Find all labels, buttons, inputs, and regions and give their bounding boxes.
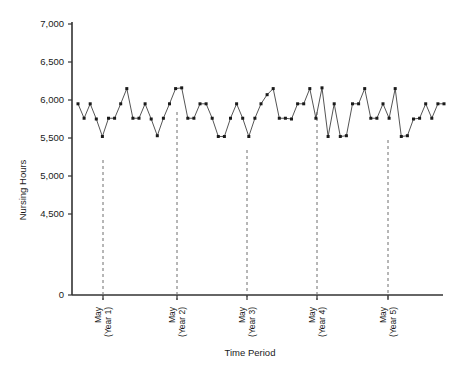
- data-point: [412, 118, 415, 121]
- data-point: [363, 87, 366, 90]
- data-point: [125, 87, 128, 90]
- data-point: [150, 118, 153, 121]
- x-tick-label-year3-top: May: [237, 306, 247, 323]
- y-tick-label-4500: 4,500: [40, 208, 64, 219]
- data-point: [229, 117, 232, 120]
- data-point: [388, 117, 391, 120]
- data-point: [119, 102, 122, 105]
- data-point: [284, 117, 287, 120]
- data-point: [302, 102, 305, 105]
- x-tick-label-year3-bottom: (Year 3): [247, 307, 257, 337]
- data-point: [321, 86, 324, 89]
- data-point: [272, 87, 275, 90]
- data-point: [394, 87, 397, 90]
- data-point: [430, 117, 433, 120]
- data-point: [308, 87, 311, 90]
- data-point: [357, 102, 360, 105]
- data-point: [205, 102, 208, 105]
- data-point: [290, 118, 293, 121]
- data-point: [400, 135, 403, 138]
- data-point: [436, 102, 439, 105]
- data-point: [144, 102, 147, 105]
- data-point: [375, 117, 378, 120]
- data-point: [260, 102, 263, 105]
- data-point: [192, 117, 195, 120]
- data-point: [369, 117, 372, 120]
- data-point: [83, 117, 86, 120]
- data-point: [174, 87, 177, 90]
- data-point: [89, 102, 92, 105]
- y-tick-label-7000: 7,000: [40, 18, 64, 29]
- chart-container: 7,000 6,500 6,000 5,500 5,000 4,500 0 Nu…: [0, 0, 452, 366]
- data-point: [314, 117, 317, 120]
- data-point: [168, 102, 171, 105]
- data-point: [113, 117, 116, 120]
- x-tick-label-year4-top: May: [307, 306, 317, 323]
- data-point: [138, 117, 141, 120]
- y-tick-label-0: 0: [59, 289, 64, 300]
- data-point: [333, 102, 336, 105]
- data-point: [95, 118, 98, 121]
- data-point: [278, 117, 281, 120]
- x-tick-label-year1-bottom: (Year 1): [103, 307, 113, 337]
- y-tick-label-5000: 5,000: [40, 170, 64, 181]
- x-axis-title: Time Period: [225, 347, 276, 358]
- y-tick-label-6000: 6,000: [40, 94, 64, 105]
- data-point: [186, 117, 189, 120]
- data-point: [235, 102, 238, 105]
- data-point: [382, 102, 385, 105]
- data-point: [101, 135, 104, 138]
- data-point: [217, 135, 220, 138]
- data-point: [424, 102, 427, 105]
- data-point: [241, 117, 244, 120]
- x-tick-label-year2-bottom: (Year 2): [177, 307, 187, 337]
- x-tick-label-year4-bottom: (Year 4): [317, 307, 327, 337]
- data-point: [211, 117, 214, 120]
- data-point: [418, 117, 421, 120]
- data-point: [162, 117, 165, 120]
- data-point: [296, 102, 299, 105]
- y-axis-title: Nursing Hours: [17, 159, 28, 220]
- data-point: [180, 86, 183, 89]
- data-point: [266, 93, 269, 96]
- data-point: [199, 102, 202, 105]
- y-tick-label-6500: 6,500: [40, 56, 64, 67]
- data-point: [77, 102, 80, 105]
- nursing-hours-line-chart: 7,000 6,500 6,000 5,500 5,000 4,500 0 Nu…: [0, 0, 452, 366]
- data-point: [131, 117, 134, 120]
- data-point: [406, 134, 409, 137]
- y-tick-label-5500: 5,500: [40, 132, 64, 143]
- x-tick-label-year5-bottom: (Year 5): [388, 307, 398, 337]
- data-point: [443, 102, 446, 105]
- data-point: [247, 135, 250, 138]
- data-point: [327, 135, 330, 138]
- data-point: [351, 102, 354, 105]
- data-point: [253, 117, 256, 120]
- data-point: [107, 117, 110, 120]
- data-point: [339, 135, 342, 138]
- x-tick-label-year1-top: May: [93, 306, 103, 323]
- data-point: [156, 134, 159, 137]
- data-point: [223, 135, 226, 138]
- x-tick-label-year2-top: May: [167, 306, 177, 323]
- data-point: [345, 134, 348, 137]
- x-tick-label-year5-top: May: [378, 306, 388, 323]
